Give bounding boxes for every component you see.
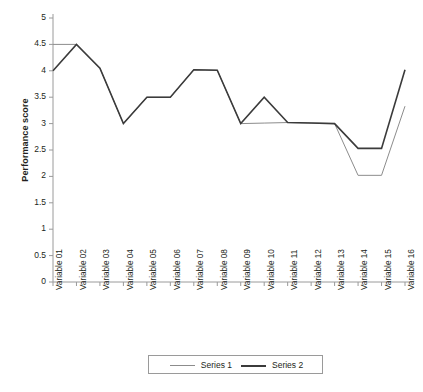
x-axis-tick-label: Variable 14 [361, 249, 369, 290]
x-axis-tick-label: Variable 15 [385, 249, 393, 290]
x-axis-tick-label: Variable 01 [56, 249, 64, 290]
x-axis-tick-label: Variable 05 [150, 249, 158, 290]
legend: Series 1 Series 2 [148, 355, 323, 374]
legend-item-series-1[interactable]: Series 1 [170, 361, 232, 370]
x-axis-tick-label: Variable 12 [315, 249, 323, 290]
legend-line-icon-series-1 [170, 365, 195, 366]
legend-label-series-1: Series 1 [201, 361, 232, 370]
legend-item-series-2[interactable]: Series 2 [241, 361, 303, 370]
legend-line-icon-series-2 [241, 365, 266, 367]
x-axis-tick-label: Variable 06 [174, 249, 182, 290]
x-axis-tick-label: Variable 02 [80, 249, 88, 290]
x-axis-tick-label: Variable 09 [244, 249, 252, 290]
x-axis-tick-label: Variable 10 [268, 249, 276, 290]
x-axis-tick-label: Variable 03 [103, 249, 111, 290]
x-axis-tick-label: Variable 07 [197, 249, 205, 290]
x-axis-tick-label: Variable 13 [338, 249, 346, 290]
x-axis-tick-label: Variable 11 [291, 250, 299, 290]
line-chart: Performance score 54.543.532.521.510.50 … [0, 0, 423, 392]
legend-label-series-2: Series 2 [272, 361, 303, 370]
x-axis-tick-label: Variable 16 [408, 249, 416, 290]
x-axis-tick-label: Variable 04 [127, 249, 135, 290]
x-axis-tick-label: Variable 08 [221, 249, 229, 290]
x-axis-tick-labels: Variable 01Variable 02Variable 03Variabl… [0, 0, 423, 392]
